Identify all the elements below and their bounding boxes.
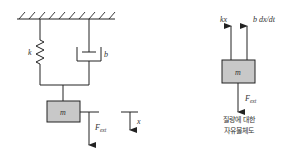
spring-label: k <box>28 48 32 57</box>
fbd-damper-force-label: b dx/dt <box>253 15 276 24</box>
fbd-force-label: Fext <box>244 94 257 104</box>
force-label: Fext <box>94 123 107 133</box>
fbd-spring-force-label: kx <box>220 15 228 24</box>
diagram-canvas: k b m Fext x kx b dx/dt m Fext 질량에 대한 자유… <box>0 0 294 155</box>
ceiling <box>17 12 115 19</box>
fbd-caption-line1: 질량에 대한 <box>223 115 256 124</box>
displacement-label: x <box>136 117 141 126</box>
fbd-mass-label: m <box>235 68 241 77</box>
fbd-caption-line2: 자유물체도 <box>224 126 255 135</box>
damper-label: b <box>104 50 108 59</box>
damper <box>77 19 101 85</box>
spring <box>36 19 44 85</box>
displacement-indicator <box>121 112 138 130</box>
connector-bar <box>40 85 89 101</box>
mass-label: m <box>60 108 66 117</box>
